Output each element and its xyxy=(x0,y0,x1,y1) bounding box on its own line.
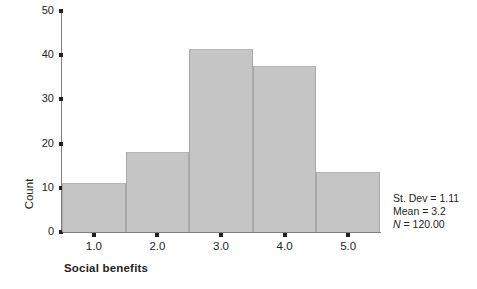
y-tick-label-text: 20 xyxy=(28,138,54,149)
histogram-bar xyxy=(62,183,126,232)
y-tick-label: 20 xyxy=(28,138,54,149)
histogram-chart: 01020304050 1.02.03.04.05.0 Count Social… xyxy=(0,0,477,289)
x-tick-mark xyxy=(92,233,96,237)
x-tick-mark xyxy=(155,233,159,237)
stats-annotation: St. Dev = 1.11 Mean = 3.2 N = 120.00 xyxy=(393,192,459,231)
y-tick-label-text: 30 xyxy=(28,93,54,104)
x-axis-title: Social benefits xyxy=(64,262,148,274)
stat-n-value: = 120.00 xyxy=(401,218,445,230)
stat-mean: Mean = 3.2 xyxy=(393,205,459,218)
y-tick-label-text: 50 xyxy=(28,5,54,16)
y-tick-label: 0 xyxy=(28,226,54,237)
x-tick-label-text: 5.0 xyxy=(328,240,368,253)
x-tick-label-text: 1.0 xyxy=(74,240,114,253)
y-tick-label-text: 0 xyxy=(28,226,54,237)
y-tick-label-text: 40 xyxy=(28,49,54,60)
y-tick-label: 50 xyxy=(28,5,54,16)
y-tick-label: 40 xyxy=(28,49,54,60)
x-tick-mark xyxy=(346,233,350,237)
x-tick-label: 3.0 xyxy=(201,240,241,253)
x-tick-label: 2.0 xyxy=(137,240,177,253)
stat-n-symbol: N xyxy=(393,218,401,230)
x-tick-label-text: 2.0 xyxy=(137,240,177,253)
histogram-bar xyxy=(253,66,317,232)
histogram-bar xyxy=(126,152,190,232)
x-tick-label-text: 4.0 xyxy=(265,240,305,253)
histogram-bar xyxy=(316,172,380,232)
stat-stdev: St. Dev = 1.11 xyxy=(393,192,459,205)
x-tick-mark xyxy=(283,233,287,237)
x-tick-label-text: 3.0 xyxy=(201,240,241,253)
y-axis-title: Count xyxy=(23,164,35,224)
x-tick-mark xyxy=(219,233,223,237)
plot-area xyxy=(62,11,380,232)
x-tick-label: 5.0 xyxy=(328,240,368,253)
x-tick-label: 1.0 xyxy=(74,240,114,253)
stat-n: N = 120.00 xyxy=(393,218,459,231)
x-tick-label: 4.0 xyxy=(265,240,305,253)
histogram-bar xyxy=(189,49,253,232)
y-tick-label: 30 xyxy=(28,93,54,104)
